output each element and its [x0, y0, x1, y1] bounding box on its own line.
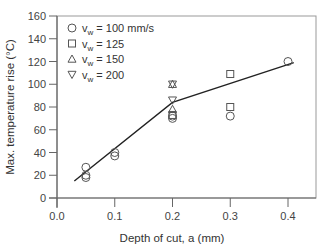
- legend-item: vw = 100 mm/s: [68, 22, 155, 37]
- y-tick-label: 80: [34, 101, 46, 113]
- circle-marker: [82, 163, 90, 171]
- y-tick-label: 160: [28, 10, 46, 22]
- y-tick-label: 0: [40, 192, 46, 204]
- legend-label: vw = 100 mm/s: [82, 22, 155, 37]
- x-axis-label: Depth of cut, a (mm): [120, 232, 225, 244]
- y-tick-label: 40: [34, 147, 46, 159]
- y-tick-label: 140: [28, 33, 46, 45]
- x-tick-label: 0.3: [223, 210, 238, 222]
- y-axis: 020406080100120140160: [28, 10, 57, 208]
- triangle-down-marker: [68, 71, 76, 78]
- legend-item: vw = 150: [68, 53, 124, 68]
- y-tick-label: 20: [34, 169, 46, 181]
- circle-marker: [68, 24, 76, 32]
- y-tick-label: 120: [28, 56, 46, 68]
- legend-item: vw = 200: [68, 69, 124, 84]
- legend: vw = 100 mm/svw = 125vw = 150vw = 200: [68, 22, 155, 84]
- y-tick-label: 60: [34, 124, 46, 136]
- series: [169, 71, 234, 119]
- circle-marker: [226, 112, 234, 120]
- x-tick-label: 0.0: [49, 210, 64, 222]
- square-marker: [69, 40, 76, 47]
- legend-label: vw = 200: [82, 69, 124, 84]
- square-marker: [227, 71, 234, 78]
- x-axis: 0.00.10.20.30.4: [49, 198, 316, 222]
- chart: 020406080100120140160 0.00.10.20.30.4 vw…: [0, 0, 324, 246]
- legend-label: vw = 125: [82, 38, 124, 53]
- square-marker: [227, 104, 234, 111]
- y-axis-label: Max. temperature rise (°C): [4, 39, 16, 175]
- series: [169, 80, 177, 112]
- x-tick-label: 0.1: [107, 210, 122, 222]
- y-tick-label: 100: [28, 78, 46, 90]
- x-tick-label: 0.2: [165, 210, 180, 222]
- x-tick-label: 0.4: [280, 210, 295, 222]
- legend-item: vw = 125: [69, 38, 125, 53]
- triangle-up-marker: [68, 55, 76, 62]
- legend-label: vw = 150: [82, 53, 124, 68]
